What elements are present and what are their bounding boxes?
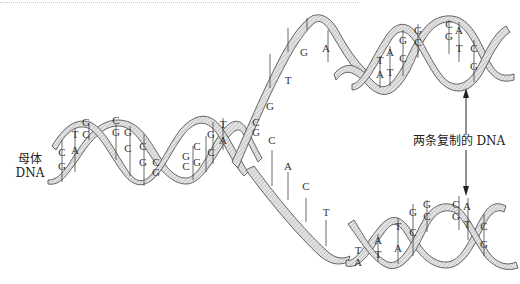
base-letter: C (302, 181, 309, 192)
fork-lower-strand (246, 166, 350, 264)
base-letter: A (354, 257, 362, 268)
base-letter: A (455, 25, 463, 36)
base-letter: G (452, 211, 460, 222)
base-letter: C (112, 115, 119, 126)
base-letter: G (266, 101, 274, 112)
daughter-dna-label: 两条复制的 DNA (404, 134, 514, 148)
base-letter: A (394, 243, 402, 254)
base-letter: G (82, 117, 90, 128)
base-letter: T (377, 55, 384, 66)
base-letter: T (395, 221, 402, 232)
base-letter: G (414, 25, 422, 36)
base-letter: T (387, 67, 394, 78)
base-letter: C (124, 143, 131, 154)
base-letter: A (284, 161, 292, 172)
base-letter: G (124, 127, 132, 138)
base-letter: G (252, 127, 260, 138)
parent-label-line1: 母体 (10, 152, 50, 166)
parent-label-line2: DNA (10, 166, 50, 180)
base-letter: C (423, 211, 430, 222)
base-letter: C (182, 161, 189, 172)
base-letter: C (409, 227, 416, 238)
base-letter: C (82, 129, 89, 140)
base-letter: A (374, 235, 382, 246)
base-letter: C (452, 199, 459, 210)
arrow-down-icon (463, 150, 469, 196)
base-letter: C (414, 37, 421, 48)
base-letter: T (456, 43, 463, 54)
base-letter: G (470, 61, 478, 72)
base-letter: G (480, 239, 488, 250)
parent-dna-label: 母体 DNA (10, 152, 50, 180)
base-letter: G (207, 129, 215, 140)
dna-replication-diagram: C G T A G C C G G C C G C G G C C G G C … (0, 0, 520, 284)
base-letter: T (375, 249, 382, 260)
base-letter: G (300, 47, 308, 58)
base-letter: A (219, 135, 227, 146)
base-letter: G (139, 157, 147, 168)
base-letter: C (399, 53, 406, 64)
base-letter: G (58, 161, 66, 172)
base-letter: T (464, 219, 471, 230)
base-letter: T (323, 207, 330, 218)
base-letter: A (386, 47, 394, 58)
base-letter: T (72, 129, 79, 140)
base-letter: G (152, 167, 160, 178)
base-letter: C (480, 221, 487, 232)
arrow-up-icon (463, 88, 469, 135)
base-letter: C (268, 135, 275, 146)
base-letter: T (355, 245, 362, 256)
base-letter: A (322, 43, 330, 54)
base-letter: C (207, 147, 214, 158)
base-letter: G (193, 157, 201, 168)
base-letter: C (193, 141, 200, 152)
base-letter: A (376, 69, 384, 80)
base-letter: A (71, 145, 79, 156)
base-letter: G (112, 127, 120, 138)
base-letter: T (285, 75, 292, 86)
base-letter: A (463, 201, 471, 212)
base-letter: C (139, 141, 146, 152)
base-letter: C (470, 43, 477, 54)
base-letter: G (399, 35, 407, 46)
base-letter: G (445, 31, 453, 42)
base-letter: G (423, 199, 431, 210)
base-letter: G (409, 207, 417, 218)
base-letter: C (445, 19, 452, 30)
base-letter: T (220, 119, 227, 130)
base-letter: C (58, 147, 65, 158)
